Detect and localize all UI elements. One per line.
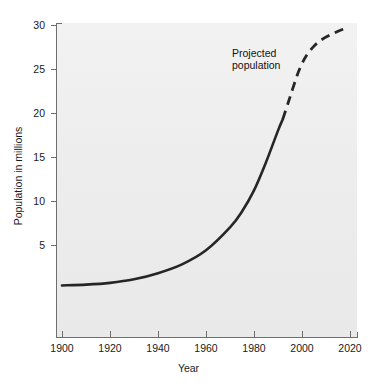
x-tick-1940	[158, 331, 159, 338]
y-tick-30	[51, 25, 57, 26]
x-tick-1980	[254, 331, 255, 338]
y-tick-25	[51, 69, 57, 70]
y-tick-15	[51, 157, 57, 158]
x-tick-1960	[206, 331, 207, 338]
x-axis-title: Year	[0, 362, 377, 374]
x-tick-label-1960: 1960	[182, 343, 230, 354]
x-tick-label-1980: 1980	[230, 343, 278, 354]
y-tick-label-30: 30	[5, 20, 45, 31]
x-axis-line	[56, 337, 358, 338]
x-tick-label-2020: 2020	[326, 343, 374, 354]
x-axis-right-cap	[357, 332, 358, 338]
x-tick-label-1940: 1940	[134, 343, 182, 354]
x-tick-1920	[110, 331, 111, 338]
annotation-line-2: population	[232, 59, 280, 71]
x-tick-label-1900: 1900	[38, 343, 86, 354]
y-tick-label-25: 25	[5, 64, 45, 75]
y-tick-label-15: 15	[5, 152, 45, 163]
y-tick-10	[51, 201, 57, 202]
y-axis-title: Population in millions	[12, 96, 24, 256]
projected-population-annotation: Projected population	[232, 47, 280, 71]
x-tick-label-1920: 1920	[86, 343, 134, 354]
population-chart: 30 25 20 15 10 5 1900 1920 1940 1960 198…	[0, 0, 377, 385]
x-tick-2000	[302, 331, 303, 338]
y-tick-20	[51, 113, 57, 114]
y-tick-label-10: 10	[5, 196, 45, 207]
y-tick-5	[51, 245, 57, 246]
x-tick-label-2000: 2000	[278, 343, 326, 354]
plot-area	[57, 23, 357, 337]
y-tick-label-5: 5	[5, 240, 45, 251]
y-axis-line	[56, 23, 57, 338]
x-tick-1900	[62, 331, 63, 338]
y-tick-label-20: 20	[5, 108, 45, 119]
x-tick-2020	[350, 331, 351, 338]
y-axis-top-cap	[57, 23, 62, 24]
annotation-line-1: Projected	[232, 47, 280, 59]
